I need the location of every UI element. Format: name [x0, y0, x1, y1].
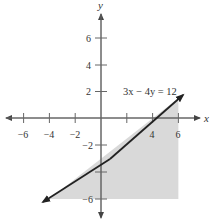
- y-tick-label: 6: [86, 33, 91, 44]
- shaded-region: [49, 98, 178, 199]
- x-tick-label: 4: [150, 129, 155, 140]
- x-tick-label: −2: [70, 129, 81, 140]
- y-axis-label: y: [97, 0, 103, 11]
- y-tick-label: 2: [86, 86, 91, 97]
- x-axis-label: x: [203, 112, 209, 124]
- x-tick-label: 6: [176, 129, 181, 140]
- y-tick-label: 4: [86, 60, 91, 71]
- x-tick-label: −4: [44, 129, 55, 140]
- y-tick-label: −6: [82, 194, 93, 205]
- y-tick-label: −2: [82, 140, 93, 151]
- x-tick-label: −6: [18, 129, 29, 140]
- inequality-graph: x y −6 −4 −2 4 6 6 4 2 −2 −6 3x − 4y = 1…: [0, 0, 217, 224]
- equation-label: 3x − 4y = 12: [123, 86, 177, 97]
